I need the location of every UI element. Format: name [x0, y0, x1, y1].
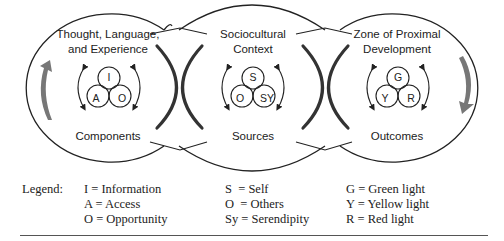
stage-2-ellipse-top — [179, 5, 325, 30]
stage-3: Zone of Proximal Development G Y R Outco… — [354, 28, 441, 142]
legend-item: R = Red light — [346, 212, 429, 227]
cycle-right-arrow-icon — [134, 68, 140, 108]
cycle-arrow-down-icon — [459, 56, 474, 114]
join-2-left-arc — [303, 46, 323, 128]
stage-1: Thought, Language, and Experience I A O … — [57, 28, 160, 142]
cycle-left-arrow-icon — [78, 68, 84, 108]
stage-1-title-line2: and Experience — [68, 43, 148, 55]
legend-title: Legend: — [22, 182, 63, 197]
venn-label-left: O — [236, 92, 244, 104]
stage-3-title-line2: Development — [363, 43, 432, 55]
join-2-right-arc — [329, 46, 349, 128]
venn-label-top: G — [394, 71, 402, 83]
legend-item: S = Self — [225, 182, 309, 197]
venn-label-left: A — [92, 92, 99, 104]
stage-1-footer: Components — [75, 130, 140, 142]
legend-item: A = Access — [84, 197, 167, 212]
three-stage-venn-diagram: Thought, Language, and Experience I A O … — [0, 0, 504, 180]
stage-3-footer: Outcomes — [371, 130, 424, 142]
legend-item: O = Opportunity — [84, 212, 167, 227]
legend-column-3: G = Green light Y = Yellow light R = Red… — [346, 182, 429, 227]
stage-1-title-line1: Thought, Language, — [57, 28, 160, 40]
legend-item: O = Others — [225, 197, 309, 212]
venn-label-top: I — [108, 71, 111, 83]
venn-label-right: R — [407, 92, 415, 104]
stage-1-top-join — [164, 25, 172, 30]
legend-item: Sy = Serendipity — [225, 212, 309, 227]
bottom-divider — [20, 235, 488, 236]
cycle-left-arrow-icon — [367, 68, 373, 108]
cycle-arrow-up-icon — [40, 60, 52, 120]
venn-label-right: O — [118, 92, 126, 104]
join-arcs — [157, 46, 348, 128]
venn-label-top: S — [249, 71, 256, 83]
stage-3-title-line1: Zone of Proximal — [354, 28, 441, 40]
legend-item: I = Information — [84, 182, 167, 197]
venn-label-right: SY — [260, 92, 274, 104]
legend-item: Y = Yellow light — [346, 197, 429, 212]
stage-2-title-line1: Sociocultural — [220, 28, 286, 40]
stage-2-footer: Sources — [232, 130, 274, 142]
cycle-right-arrow-icon — [423, 68, 429, 108]
legend: Legend: I = Information A = Access O = O… — [0, 180, 504, 241]
join-1-left-arc — [157, 46, 177, 128]
venn-label-left: Y — [381, 92, 388, 104]
stage-2-title-line2: Context — [233, 43, 273, 55]
cycle-left-arrow-icon — [222, 68, 228, 108]
cycle-right-arrow-icon — [278, 68, 284, 108]
legend-item: G = Green light — [346, 182, 429, 197]
stage-2: Sociocultural Context S O SY Sources — [220, 28, 286, 142]
stage-2-ellipse-bottom — [179, 146, 325, 171]
join-1-right-arc — [183, 46, 203, 128]
legend-column-2: S = Self O = Others Sy = Serendipity — [225, 182, 309, 227]
legend-column-1: I = Information A = Access O = Opportuni… — [84, 182, 167, 227]
